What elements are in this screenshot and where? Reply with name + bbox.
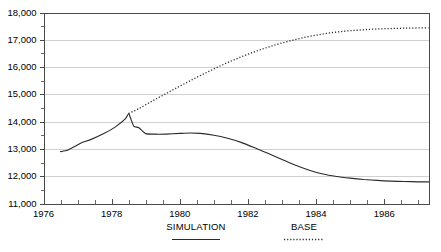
- x-axis-label: 1980: [169, 208, 190, 219]
- series-simulation-line: [61, 113, 429, 181]
- x-axis-tick-labels: 197619781980198219841986: [33, 208, 395, 219]
- legend-label-solid: SIMULATION: [166, 221, 225, 232]
- line-chart: 11,00012,00013,00014,00015,00016,00017,0…: [0, 0, 441, 252]
- y-axis-label: 15,000: [7, 88, 36, 99]
- y-axis-ticks: [40, 14, 44, 205]
- chart-container: 11,00012,00013,00014,00015,00016,00017,0…: [0, 0, 441, 252]
- legend-label-dotted: BASE: [291, 221, 317, 232]
- x-axis-label: 1984: [305, 208, 326, 219]
- plot-frame: [44, 13, 429, 204]
- x-axis-ticks: [45, 199, 419, 204]
- y-axis-label: 14,000: [7, 116, 36, 127]
- plot-border: [44, 13, 429, 204]
- y-axis-label: 16,000: [7, 61, 36, 72]
- series-group: [61, 28, 429, 182]
- y-axis-label: 17,000: [7, 34, 36, 45]
- y-axis-tick-labels: 11,00012,00013,00014,00015,00016,00017,0…: [7, 7, 36, 209]
- y-axis-label: 13,000: [7, 143, 36, 154]
- x-axis-label: 1982: [237, 208, 258, 219]
- x-axis-label: 1978: [101, 208, 122, 219]
- gridlines: [44, 41, 429, 177]
- x-axis-label: 1986: [374, 208, 395, 219]
- y-axis-label: 12,000: [7, 170, 36, 181]
- chart-legend: SIMULATIONBASE: [166, 221, 324, 240]
- y-axis-label: 18,000: [7, 7, 36, 18]
- x-axis-label: 1976: [33, 208, 54, 219]
